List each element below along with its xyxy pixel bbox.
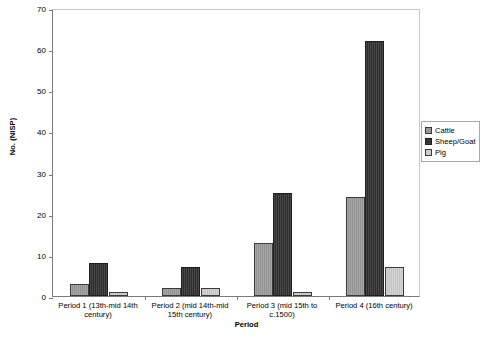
y-axis-tick-label: 70 [24,6,46,14]
legend-item[interactable]: Pig [425,147,476,158]
legend-item-label: Sheep/Goat [435,138,476,146]
legend-item-label: Pig [435,149,446,157]
y-axis-tick-label: 0 [24,294,46,302]
legend-swatch-icon [425,138,432,145]
bar-sheepgoat [181,267,200,296]
bar-group [329,10,421,296]
x-axis-tick [145,296,146,300]
bar-sheepgoat [273,193,292,296]
bar-pig [385,267,404,296]
bar-sheepgoat [365,41,384,296]
plot-area: 010203040506070 [52,9,420,297]
bar-pig [109,292,128,296]
bar-cattle [346,197,365,296]
bar-cattle [70,284,89,296]
y-axis-tick-label: 30 [24,171,46,179]
category-label: Period 3 (mid 15th to c.1500) [236,301,328,320]
bar-pig [201,288,220,296]
bar-group [145,10,237,296]
bar-chart: No. (NISP) 010203040506070 Period 1 (13t… [0,0,493,338]
y-axis-title: No. (NISP) [8,97,17,177]
bar-group [237,10,329,296]
bar-cattle [254,243,273,296]
y-axis-tick [49,298,53,299]
bar-pig [293,292,312,296]
y-axis-tick-label: 60 [24,47,46,55]
category-label: Period 2 (mid 14th-mid 15th century) [144,301,236,320]
y-axis-tick-label: 40 [24,129,46,137]
legend-swatch-icon [425,127,432,134]
x-axis-tick [329,296,330,300]
x-axis-title: Period [0,320,493,329]
legend-item[interactable]: Sheep/Goat [425,136,476,147]
chart-legend: CattleSheep/GoatPig [421,121,480,162]
x-axis-tick [237,296,238,300]
y-axis-tick-label: 50 [24,88,46,96]
y-axis-tick-label: 20 [24,212,46,220]
legend-item-label: Cattle [435,127,455,135]
bar-sheepgoat [89,263,108,296]
bar-group [53,10,145,296]
category-label: Period 4 (16th century) [328,301,420,310]
category-label: Period 1 (13th-mid 14th century) [52,301,144,320]
y-axis-tick-label: 10 [24,253,46,261]
bar-cattle [162,288,181,296]
legend-swatch-icon [425,149,432,156]
legend-item[interactable]: Cattle [425,125,476,136]
